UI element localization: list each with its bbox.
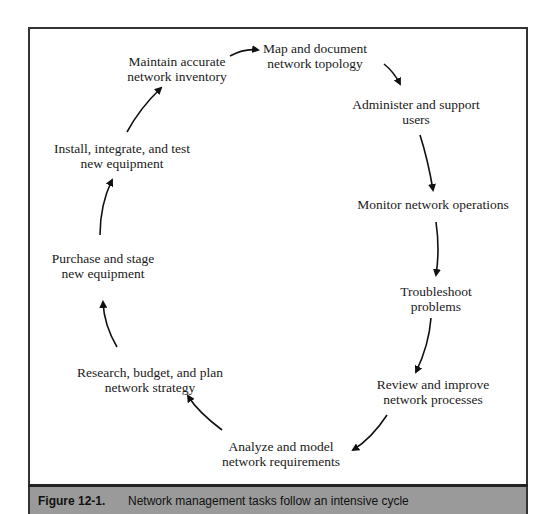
node-administer: Administer and support users <box>352 97 480 127</box>
node-troubleshoot: Troubleshoot problems <box>400 284 472 314</box>
caption-label: Figure 12-1. <box>38 494 122 508</box>
node-purchase: Purchase and stage new equipment <box>52 251 155 281</box>
node-map: Map and document network topology <box>263 41 367 71</box>
node-review: Review and improve network processes <box>377 377 489 407</box>
arrow-purchase-to-install <box>100 180 112 235</box>
arrow-install-to-maintain <box>127 88 161 132</box>
arrow-map-to-administer <box>384 64 400 84</box>
arrow-research-to-purchase <box>103 302 117 347</box>
arrow-analyze-to-research <box>188 396 222 430</box>
arrow-review-to-analyze <box>353 415 387 450</box>
arrow-maintain-to-map <box>230 50 258 56</box>
node-research: Research, budget, and plan network strat… <box>77 365 223 395</box>
node-maintain: Maintain accurate network inventory <box>127 54 226 84</box>
node-analyze: Analyze and model network requirements <box>222 439 340 469</box>
arrow-administer-to-monitor <box>420 135 433 190</box>
caption-text: Network management tasks follow an inten… <box>128 494 409 508</box>
arrow-monitor-to-troubleshoot <box>436 222 438 275</box>
node-monitor: Monitor network operations <box>357 197 508 212</box>
figure-caption: Figure 12-1. Network management tasks fo… <box>28 487 528 514</box>
arrow-troubleshoot-to-review <box>416 318 431 372</box>
node-install: Install, integrate, and test new equipme… <box>54 141 190 171</box>
